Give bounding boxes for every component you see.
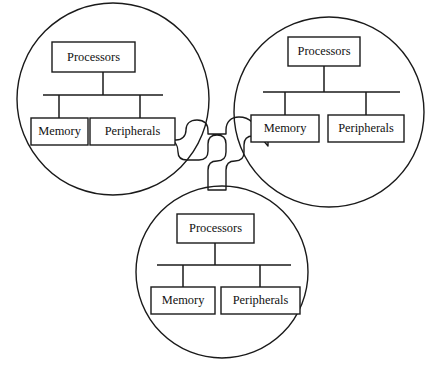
- node-right[interactable]: Processors Memory Peripherals: [234, 17, 424, 207]
- node-left-processors[interactable]: Processors: [52, 42, 135, 72]
- node-right-memory[interactable]: Memory: [251, 115, 319, 142]
- node-bottom-memory[interactable]: Memory: [151, 287, 215, 314]
- node-bottom-peripherals-label: Peripherals: [233, 293, 289, 307]
- node-bottom-processors-label: Processors: [189, 221, 242, 235]
- network-diagram: Processors Memory Peripherals Processo: [0, 0, 439, 390]
- node-right-peripherals[interactable]: Peripherals: [328, 115, 404, 142]
- node-right-memory-label: Memory: [264, 121, 307, 135]
- node-bottom-boundary: [136, 186, 308, 358]
- node-left-memory[interactable]: Memory: [31, 118, 88, 145]
- node-left[interactable]: Processors Memory Peripherals: [17, 3, 209, 195]
- node-bottom-processors[interactable]: Processors: [177, 214, 254, 243]
- node-right-processors[interactable]: Processors: [288, 37, 360, 66]
- node-left-memory-label: Memory: [38, 124, 81, 138]
- node-bottom-memory-label: Memory: [162, 293, 205, 307]
- node-left-boundary: [17, 3, 209, 195]
- node-left-processors-label: Processors: [67, 50, 120, 64]
- node-left-peripherals-label: Peripherals: [105, 124, 161, 138]
- node-bottom[interactable]: Processors Memory Peripherals: [136, 186, 308, 358]
- node-left-peripherals[interactable]: Peripherals: [90, 118, 175, 145]
- node-right-peripherals-label: Peripherals: [338, 121, 394, 135]
- diagram-canvas: Processors Memory Peripherals Processo: [0, 0, 439, 390]
- node-bottom-peripherals[interactable]: Peripherals: [221, 287, 300, 314]
- node-right-processors-label: Processors: [298, 44, 351, 58]
